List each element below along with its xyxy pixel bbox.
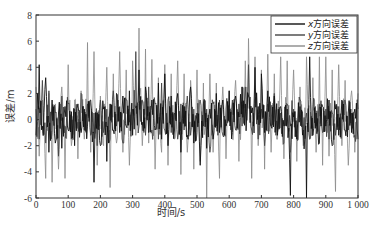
x-tick-label: 600 [222, 200, 237, 210]
y-tick-label: 0 [27, 115, 32, 125]
series-layer [36, 28, 358, 198]
x-tick-label: 200 [93, 200, 108, 210]
x-tick-label: 300 [125, 200, 140, 210]
y-tick-label: 6 [27, 37, 32, 47]
x-tick-label: 1 000 [347, 200, 369, 210]
legend-label-z: z方向误差 [307, 40, 349, 51]
x-axis: 01002003004005006007008009001 000 [34, 195, 369, 210]
y-tick-label: 4 [27, 63, 32, 73]
legend: x方向误差 y方向误差 z方向误差 [271, 16, 357, 53]
y-tick-label: -4 [24, 167, 32, 177]
y-tick-label: -2 [24, 141, 32, 151]
legend-label-x: x方向误差 [307, 18, 349, 29]
x-axis-title: 时间/s [157, 206, 186, 218]
y-tick-label: -6 [24, 194, 32, 204]
y-tick-label: 2 [27, 89, 32, 99]
x-tick-label: 900 [319, 200, 334, 210]
y-axis-title: 误差/m [4, 89, 16, 122]
y-tick-label: 8 [27, 11, 32, 21]
x-tick-label: 100 [61, 200, 76, 210]
x-tick-label: 0 [34, 200, 39, 210]
x-tick-label: 700 [254, 200, 269, 210]
line-chart: -6-4-202468 0100200300400500600700800900… [0, 0, 376, 230]
x-tick-label: 800 [286, 200, 301, 210]
x-tick-label: 500 [190, 200, 205, 210]
legend-label-y: y方向误差 [307, 29, 349, 40]
